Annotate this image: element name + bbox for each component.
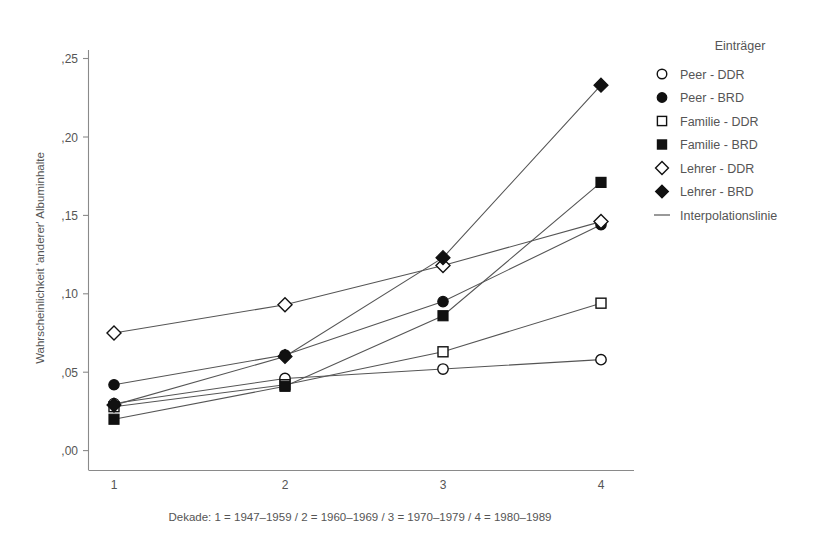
- legend-item-label: Lehrer - BRD: [680, 185, 754, 199]
- legend-title: Einträger: [715, 39, 766, 53]
- data-point-circle-open: [596, 354, 606, 364]
- series-line: [114, 182, 601, 419]
- y-tick-label-20: ,20: [61, 131, 78, 145]
- legend-item-label: Peer - BRD: [680, 91, 744, 105]
- data-point-square-filled: [596, 177, 606, 187]
- legend-item-lehrer-ddr[interactable]: Lehrer - DDR: [656, 162, 755, 176]
- legend-entries: Peer - DDRPeer - BRDFamilie - DDRFamilie…: [654, 68, 777, 223]
- data-point-circle-filled: [109, 380, 119, 390]
- data-point-square-filled: [438, 311, 448, 321]
- legend-item-label: Lehrer - DDR: [680, 162, 754, 176]
- series-line: [114, 85, 601, 405]
- y-axis-title-text: Wahrscheinlichkeit 'anderer' Albuminhalt…: [34, 152, 46, 364]
- y-tick-label-15: ,15: [61, 209, 78, 223]
- data-point-square-open: [438, 347, 448, 357]
- diamond-filled-icon: [656, 185, 669, 198]
- x-tick-label-3: 3: [440, 478, 447, 492]
- plot-series-layer: [107, 78, 608, 424]
- data-point-diamond-open: [278, 298, 292, 312]
- series-line: [114, 303, 601, 407]
- legend-item-familie-brd[interactable]: Familie - BRD: [657, 138, 757, 152]
- y-tick-label-00: ,00: [61, 444, 78, 458]
- x-tick-label-1: 1: [111, 478, 118, 492]
- legend-item-interpolationslinie[interactable]: Interpolationslinie: [654, 209, 777, 223]
- y-axis-title: Wahrscheinlichkeit 'anderer' Albuminhalt…: [34, 152, 46, 364]
- data-point-circle-open: [438, 364, 448, 374]
- y-tick-label-05: ,05: [61, 366, 78, 380]
- data-point-square-filled: [109, 414, 119, 424]
- legend-item-label: Familie - BRD: [680, 138, 758, 152]
- chart-page: Wahrscheinlichkeit 'anderer' Albuminhalt…: [0, 0, 818, 545]
- x-tick-label-4: 4: [598, 478, 605, 492]
- data-point-diamond-open: [107, 326, 121, 340]
- legend-item-familie-ddr[interactable]: Familie - DDR: [657, 115, 758, 129]
- circle-filled-icon: [657, 93, 667, 103]
- x-axis-title-text: Dekade: 1 = 1947–1959 / 2 = 1960–1969 / …: [168, 511, 551, 523]
- legend-item-peer-brd[interactable]: Peer - BRD: [657, 91, 744, 105]
- data-point-circle-filled: [438, 296, 448, 306]
- legend-item-label: Peer - DDR: [680, 68, 745, 82]
- legend-item-label: Familie - DDR: [680, 115, 758, 129]
- y-tick-label-10: ,10: [61, 287, 78, 301]
- square-open-icon: [657, 116, 666, 125]
- square-filled-icon: [657, 140, 666, 149]
- data-point-diamond-filled: [278, 349, 292, 363]
- y-axis: ,25 ,20 ,15 ,10 ,05 ,00: [61, 50, 88, 470]
- data-point-square-filled: [280, 381, 290, 391]
- y-tick-group: ,25 ,20 ,15 ,10 ,05 ,00: [61, 52, 88, 458]
- legend: Einträger Peer - DDRPeer - BRDFamilie - …: [654, 39, 777, 223]
- legend-item-peer-ddr[interactable]: Peer - DDR: [657, 68, 744, 82]
- legend-item-label: Interpolationslinie: [680, 209, 777, 223]
- scatter-line-chart: Wahrscheinlichkeit 'anderer' Albuminhalt…: [0, 0, 818, 545]
- y-tick-label-25: ,25: [61, 52, 78, 66]
- series-line: [114, 222, 601, 333]
- circle-open-icon: [657, 69, 667, 79]
- diamond-open-icon: [656, 162, 669, 175]
- data-point-square-open: [596, 298, 606, 308]
- x-tick-label-2: 2: [282, 478, 289, 492]
- series-line: [114, 225, 601, 385]
- x-axis: 1 2 3 4: [89, 471, 635, 493]
- legend-item-lehrer-brd[interactable]: Lehrer - BRD: [656, 185, 754, 199]
